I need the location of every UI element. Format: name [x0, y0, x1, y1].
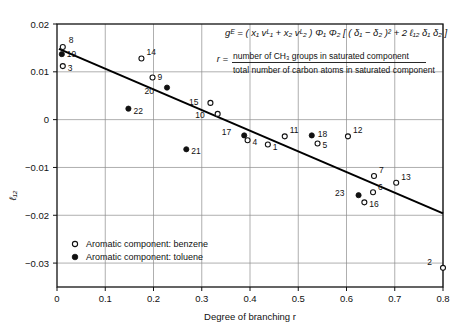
data-point-label: 20	[145, 86, 155, 96]
data-point-marker[interactable]	[362, 200, 367, 205]
data-point-label: 13	[401, 172, 411, 182]
x-tick-label: 0.2	[147, 293, 160, 304]
data-point-marker[interactable]	[164, 85, 169, 90]
data-point-label: 4	[253, 137, 258, 147]
x-tick-label: 0.6	[340, 293, 353, 304]
ratio-numerator: number of CH₃ groups in saturated compon…	[233, 51, 410, 61]
data-point-label: 17	[222, 127, 232, 137]
data-point-marker[interactable]	[441, 265, 446, 270]
ratio-denominator: total number of carbon atoms in saturate…	[233, 65, 435, 75]
legend-marker	[72, 241, 77, 246]
data-point-marker[interactable]	[126, 106, 131, 111]
data-point-marker[interactable]	[282, 134, 287, 139]
y-tick-label: −0.02	[25, 210, 49, 221]
data-point-label: 5	[323, 140, 328, 150]
scatter-chart-figure: 00.10.20.30.40.50.60.70.80.020.010−0.01−…	[0, 0, 461, 326]
ratio-symbol: r =	[217, 53, 229, 64]
data-point-marker[interactable]	[345, 134, 350, 139]
data-point-label: 7	[379, 165, 384, 175]
x-tick-label: 0.1	[99, 293, 112, 304]
data-point-label: 19	[67, 49, 77, 59]
legend-marker	[72, 254, 78, 260]
y-tick-label: −0.03	[25, 258, 49, 269]
data-point-label: 1	[273, 142, 278, 152]
data-point-label: 23	[335, 188, 345, 198]
data-point-label: 21	[191, 146, 201, 156]
data-point-marker[interactable]	[245, 138, 250, 143]
legend-label: Aromatic component: benzene	[86, 239, 208, 249]
data-point-label: 9	[158, 72, 163, 82]
x-tick-label: 0.7	[388, 293, 401, 304]
x-tick-label: 0.3	[195, 293, 208, 304]
data-point-marker[interactable]	[371, 190, 376, 195]
y-tick-label: 0.02	[31, 19, 50, 30]
data-point-label: 22	[133, 106, 143, 116]
y-tick-label: 0.01	[31, 66, 50, 77]
data-point-marker[interactable]	[242, 133, 247, 138]
y-axis-title: ℓ₁₂	[7, 190, 18, 201]
data-point-label: 6	[378, 182, 383, 192]
data-point-marker[interactable]	[150, 75, 155, 80]
data-point-marker[interactable]	[60, 64, 65, 69]
data-point-label: 16	[369, 199, 379, 209]
data-point-label: 10	[195, 110, 205, 120]
legend-label: Aromatic component: toluene	[86, 252, 203, 262]
equation-annotation: gᴱ = ( x₁ vᴸ₁ + x₂ vᴸ₂ ) Φ₁ Φ₂ [ ( δ₁ − …	[225, 27, 448, 38]
data-point-label: 8	[69, 35, 74, 45]
data-point-marker[interactable]	[208, 100, 213, 105]
data-point-marker[interactable]	[139, 56, 144, 61]
x-axis-title: Degree of branching r	[204, 311, 296, 322]
data-point-marker[interactable]	[59, 52, 64, 57]
x-tick-label: 0.4	[243, 293, 256, 304]
data-point-label: 14	[146, 47, 156, 57]
y-tick-label: 0	[44, 114, 49, 125]
data-point-marker[interactable]	[215, 111, 220, 116]
data-point-marker[interactable]	[372, 174, 377, 179]
data-point-marker[interactable]	[60, 44, 65, 49]
data-point-label: 3	[68, 63, 73, 73]
data-point-marker[interactable]	[394, 180, 399, 185]
y-tick-label: −0.01	[25, 162, 49, 173]
x-tick-label: 0.8	[436, 293, 449, 304]
data-point-marker[interactable]	[184, 147, 189, 152]
x-tick-label: 0	[54, 293, 59, 304]
x-tick-label: 0.5	[292, 293, 305, 304]
data-point-label: 12	[353, 125, 363, 135]
data-point-label: 18	[318, 129, 328, 139]
chart-canvas: 00.10.20.30.40.50.60.70.80.020.010−0.01−…	[0, 0, 461, 326]
data-point-marker[interactable]	[309, 133, 314, 138]
data-point-label: 2	[427, 257, 432, 267]
data-point-marker[interactable]	[265, 142, 270, 147]
data-point-label: 11	[290, 125, 299, 135]
data-point-marker[interactable]	[356, 193, 361, 198]
data-point-label: 15	[189, 97, 199, 107]
data-point-marker[interactable]	[315, 141, 320, 146]
